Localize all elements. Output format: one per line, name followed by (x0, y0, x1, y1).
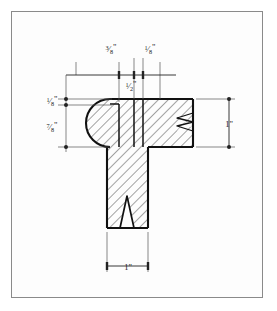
dimension-label-one-eighth-left: 1⁄8" (46, 94, 57, 108)
dimension-label-one-eighth-top: 1⁄8" (144, 42, 155, 56)
flange-head (86, 99, 193, 147)
frac-unit: " (113, 42, 116, 52)
dimension-label-seven-eighths: 7⁄8" (46, 120, 57, 134)
frac-unit: " (152, 42, 155, 52)
dimension-top: 3⁄8" 1⁄8" (66, 42, 176, 102)
frac-unit: " (133, 79, 136, 89)
technical-drawing: 3⁄8" 1⁄8" 1⁄2" (0, 0, 277, 311)
svg-text:7⁄8": 7⁄8" (46, 120, 57, 134)
frac-unit: " (54, 120, 57, 130)
svg-text:1⁄8": 1⁄8" (46, 94, 57, 108)
svg-text:3⁄8": 3⁄8" (105, 42, 116, 56)
svg-text:1⁄2": 1⁄2" (125, 79, 136, 93)
dimension-half-inch: 1⁄2" (125, 79, 136, 93)
dimension-right-height: 1" (196, 97, 235, 149)
svg-text:1⁄8": 1⁄8" (144, 42, 155, 56)
drawing-page: 3⁄8" 1⁄8" 1⁄2" (0, 0, 277, 311)
dimension-label-three-eighths: 3⁄8" (105, 42, 116, 56)
dimension-bottom-width: 1" (107, 232, 148, 272)
frac-unit: " (54, 94, 57, 104)
dimension-label-bottom-one-inch: 1" (124, 262, 132, 272)
dimension-label-right-one-inch: 1" (225, 119, 233, 129)
extension-lines-top (76, 58, 160, 102)
